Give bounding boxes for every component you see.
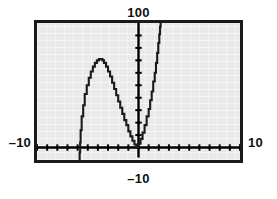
- plot-canvas: [37, 23, 240, 160]
- x-max-label: 10: [248, 136, 263, 149]
- y-min-label: –10: [0, 172, 277, 185]
- curve-layer: [80, 23, 161, 160]
- y-max-label: 100: [0, 6, 277, 19]
- calculator-screen: [34, 20, 243, 163]
- x-min-label: –10: [3, 136, 31, 149]
- graphing-calculator-figure: 100 –10 10 –10: [0, 0, 277, 199]
- curve-right-branch: [139, 23, 162, 148]
- axes-layer: [37, 23, 240, 158]
